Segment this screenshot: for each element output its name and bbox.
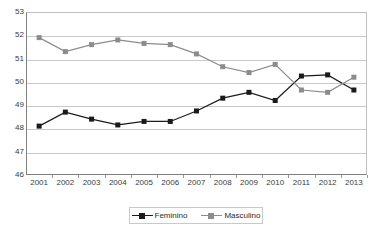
data-point-feminino-2002[interactable] bbox=[63, 110, 68, 115]
legend-swatch-feminino bbox=[132, 211, 153, 220]
data-point-feminino-2006[interactable] bbox=[168, 119, 173, 124]
data-point-feminino-2008[interactable] bbox=[220, 96, 225, 101]
data-point-masculino-2004[interactable] bbox=[115, 37, 120, 42]
data-point-masculino-2009[interactable] bbox=[246, 70, 251, 75]
legend-square-icon bbox=[139, 213, 145, 219]
data-point-masculino-2012[interactable] bbox=[325, 90, 330, 95]
data-point-masculino-2013[interactable] bbox=[351, 75, 356, 80]
legend-square-icon bbox=[208, 213, 214, 219]
legend-label-feminino: Feminino bbox=[155, 211, 188, 220]
data-point-feminino-2010[interactable] bbox=[273, 98, 278, 103]
data-point-feminino-2001[interactable] bbox=[37, 124, 42, 129]
data-point-masculino-2001[interactable] bbox=[37, 35, 42, 40]
data-point-feminino-2007[interactable] bbox=[194, 108, 199, 113]
data-point-feminino-2009[interactable] bbox=[246, 90, 251, 95]
data-point-feminino-2005[interactable] bbox=[142, 119, 147, 124]
line-chart: 4647484950515253 20012002200320042005200… bbox=[0, 0, 380, 237]
data-point-masculino-2010[interactable] bbox=[273, 62, 278, 67]
data-point-masculino-2003[interactable] bbox=[89, 42, 94, 47]
data-point-feminino-2011[interactable] bbox=[299, 74, 304, 79]
legend-swatch-masculino bbox=[201, 211, 222, 220]
legend-item-masculino[interactable]: Masculino bbox=[201, 211, 260, 220]
legend-label-masculino: Masculino bbox=[224, 211, 260, 220]
data-point-masculino-2008[interactable] bbox=[220, 64, 225, 69]
series-line-feminino bbox=[39, 75, 354, 126]
data-point-masculino-2007[interactable] bbox=[194, 51, 199, 56]
series-line-masculino bbox=[39, 38, 354, 93]
chart-legend: Feminino Masculino bbox=[129, 207, 263, 224]
data-point-feminino-2003[interactable] bbox=[89, 117, 94, 122]
data-point-masculino-2002[interactable] bbox=[63, 49, 68, 54]
data-point-feminino-2012[interactable] bbox=[325, 72, 330, 77]
data-point-feminino-2013[interactable] bbox=[351, 88, 356, 93]
data-point-masculino-2006[interactable] bbox=[168, 42, 173, 47]
series-layer bbox=[0, 0, 380, 237]
data-point-feminino-2004[interactable] bbox=[115, 122, 120, 127]
data-point-masculino-2011[interactable] bbox=[299, 88, 304, 93]
data-point-masculino-2005[interactable] bbox=[142, 41, 147, 46]
legend-item-feminino[interactable]: Feminino bbox=[132, 211, 188, 220]
